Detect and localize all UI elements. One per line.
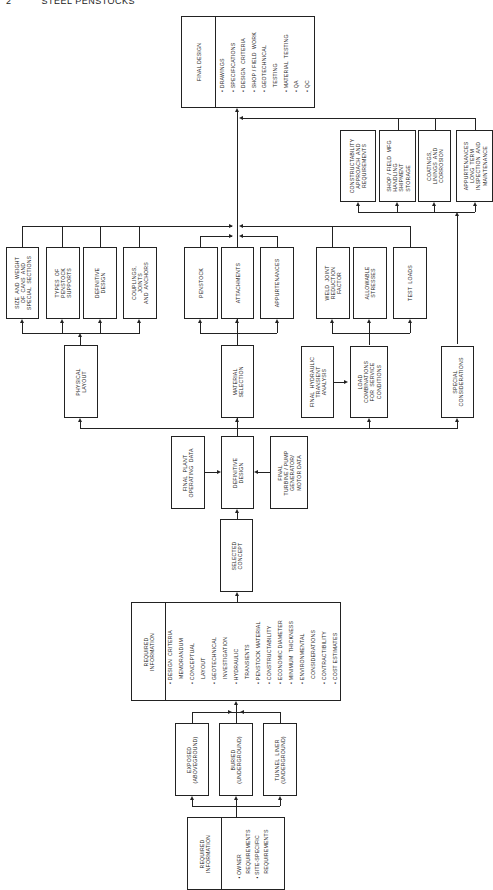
arrow-up-icon [235,509,239,513]
connector [457,422,458,428]
weld-joint-label: WELD JOINT REDUCTION FACTOR [324,265,343,300]
connector [192,800,193,806]
required-information-title: REQUIRED INFORMATION [142,632,154,670]
connector [435,118,436,130]
arrow-up-icon [455,418,459,422]
arrow-up-icon [20,319,24,323]
special-considerations-box: SPECIAL CONSIDERATIONS [441,346,474,418]
size-weight-box: SIZE AND WEIGHT OF CANS AND SPECIAL SECT… [6,247,39,319]
material-selection-label: MATERIAL SELECTION [231,366,243,397]
required-information-items: • DESIGN CRITERIA MEMORANDUM • CONCEPTUA… [165,620,341,684]
arrow-up-icon [408,319,412,323]
arrow-up-icon [455,212,459,216]
connector [277,236,278,247]
attachments-box: ATTACHMENTS [221,247,254,319]
constructability-label: CONSTRUCTABILITY APPROACH AND REQUIREMEN… [349,139,368,194]
final-plant-box: FINAL PLANT OPERATING DATA [171,436,205,509]
arrow-up-icon [198,319,202,323]
connector [62,226,63,247]
shop-field-mfg-label: SHOP / FIELD MFG HANDLING SHIPMENT STORA… [385,140,410,191]
appurtenances-maintenance-box: APPURTENANCES LONG TERM INSPECTION AND M… [456,130,493,202]
arrow-up-icon [356,202,360,206]
connector [62,323,63,333]
constructability-box: CONSTRUCTABILITY APPROACH AND REQUIREMEN… [340,130,376,202]
connector [277,323,278,333]
selected-concept-label: SELECTED CONCEPT [230,541,242,570]
page-number: 2 [6,0,12,6]
test-loads-label: TEST LOADS [407,265,413,301]
arrow-up-icon [234,796,238,800]
buried-box: BURIED (UNDERGROUND) [219,723,253,796]
connector [410,226,411,247]
connector [205,472,217,473]
couplings-box: COUPLINGS, JOINTS AND ANCHORS [123,247,157,319]
penstock-supports-label: TYPES OF PENSTOCK SUPPORTS [54,268,73,298]
arrow-left-icon [239,234,243,238]
connector [100,323,101,333]
final-hydraulic-label: FINAL HYDRAULIC TRANSIENT ANALYSIS [308,357,327,408]
special-considerations-label: SPECIAL CONSIDERATIONS [451,357,463,406]
page-header: 2 STEEL PENSTOCKS [6,0,135,6]
arrow-up-icon [98,319,102,323]
connector [280,800,281,806]
connector [100,226,101,247]
final-turbine-label: FINAL TURBINE / PUMP GENERATOR/ MOTOR DA… [277,450,302,495]
load-combinations-label: LOAD COMBINATIONS FOR SERVICE CONDITIONS [357,361,382,403]
arrow-up-icon [367,319,371,323]
arrow-right-icon [228,710,232,714]
arrow-up-icon [275,319,279,323]
connector [22,226,232,227]
tunnel-liner-box: TUNNEL LINER (UNDERGROUND) [263,723,297,796]
connector [334,382,344,383]
arrow-up-icon [234,701,238,705]
connector [236,800,237,817]
penstock-box: PENSTOCK [184,247,218,319]
connector [410,323,411,333]
arrow-right-icon [229,234,233,238]
appurtenances-maintenance-label: APPURTENANCES LONG TERM INSPECTION AND M… [462,142,487,191]
connector [332,333,410,334]
running-title: STEEL PENSTOCKS [42,0,136,6]
final-hydraulic-box: FINAL HYDRAULIC TRANSIENT ANALYSIS [301,346,334,418]
arrow-up-icon [235,319,239,323]
exposed-box: EXPOSED (ABOVEGROUND) [175,723,209,796]
connector [258,472,270,473]
arrow-up-icon [60,319,64,323]
required-information-start-items: • OWNER REQUIREMENTS • SITE-SPECIFIC REQ… [235,829,271,878]
connector [332,226,333,247]
arrow-up-icon [137,319,141,323]
load-combinations-box: LOAD COMBINATIONS FOR SERVICE CONDITIONS [350,346,388,418]
appurtenances-label: APPURTENANCES [274,259,280,308]
required-information-start-box: REQUIRED INFORMATION • OWNER REQUIREMENT… [187,817,285,890]
connector [369,323,370,345]
couplings-label: COUPLINGS, JOINTS AND ANCHORS [131,262,150,304]
final-design-items: • DRAWINGS • SPECIFICATIONS • DESIGN CRI… [217,32,312,92]
connector [475,118,476,130]
arrow-up-icon [235,592,239,596]
appurtenances-box: APPURTENANCES [260,247,294,319]
definitive-design-box: DEFINITIVE DESIGN [221,436,254,509]
selected-concept-box: SELECTED CONCEPT [220,519,253,592]
arrow-right-icon [229,224,233,228]
physical-layout-box: PHYSICAL LAYOUT [64,345,98,418]
connector [280,712,281,723]
connector [22,226,23,247]
arrow-up-icon [78,333,82,337]
connector [192,712,193,723]
arrow-left-icon [239,116,243,120]
definitive-design-sub-box: DEFINITIVE DESIGN [83,247,117,319]
exposed-label: EXPOSED (ABOVEGROUND) [186,736,198,783]
arrow-up-icon [190,796,194,800]
connector [200,333,277,334]
shop-field-mfg-box: SHOP / FIELD MFG HANDLING SHIPMENT STORA… [379,130,416,202]
required-information-start-title: REQUIRED INFORMATION [198,834,210,872]
connector [434,206,435,212]
tunnel-liner-label: TUNNEL LINER (UNDERGROUND) [274,736,286,784]
connector [22,323,23,333]
connector [200,236,201,247]
physical-layout-label: PHYSICAL LAYOUT [75,368,87,395]
coatings-label: COATINGS, LININGS AND CORROSION [425,148,444,185]
buried-label: BURIED (UNDERGROUND) [230,736,242,784]
connector [358,206,359,212]
connector [475,206,476,212]
